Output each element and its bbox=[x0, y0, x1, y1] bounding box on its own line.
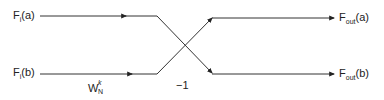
input-a-arg: (a) bbox=[21, 9, 34, 21]
output-a-label: Fout(a) bbox=[339, 12, 369, 25]
cross-a-to-b bbox=[157, 16, 212, 73]
input-a-label: Fi(a) bbox=[13, 10, 35, 23]
butterfly-diagram bbox=[0, 0, 384, 100]
output-b-arg: (b) bbox=[355, 67, 368, 79]
input-a-base: F bbox=[13, 9, 20, 21]
input-b-arg: (b) bbox=[21, 66, 34, 78]
twiddle-base: W bbox=[88, 82, 98, 94]
input-b-base: F bbox=[13, 66, 20, 78]
twiddle-factor-label: W k N bbox=[88, 83, 98, 94]
output-a-arg: (a) bbox=[355, 11, 368, 23]
input-b-label: Fi(b) bbox=[13, 67, 35, 80]
twiddle-sub: N bbox=[98, 88, 103, 95]
twiddle-sup: k bbox=[98, 79, 102, 86]
output-a-sub: out bbox=[346, 18, 356, 25]
multiplier-label: −1 bbox=[176, 80, 189, 91]
output-b-sub: out bbox=[346, 74, 356, 81]
cross-b-to-a bbox=[157, 18, 212, 74]
output-a-base: F bbox=[339, 11, 346, 23]
output-b-label: Fout(b) bbox=[339, 68, 369, 81]
output-b-base: F bbox=[339, 67, 346, 79]
